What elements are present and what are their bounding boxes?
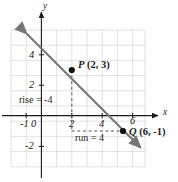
x-tick-label-6: 6 bbox=[130, 116, 135, 127]
y-tick-label-neg2: -2 bbox=[25, 141, 34, 152]
point-q-coords: (6, -1) bbox=[139, 126, 165, 137]
point-q-marker bbox=[120, 128, 126, 134]
point-q-label: Q (6, -1) bbox=[129, 127, 165, 138]
point-p-name: P bbox=[78, 59, 84, 70]
x-tick-label-2: 2 bbox=[69, 119, 74, 130]
run-annotation: run = 4 bbox=[75, 133, 104, 143]
point-q-name: Q bbox=[129, 126, 137, 137]
y-axis-label: y bbox=[43, 2, 47, 12]
graph-figure: y x -1 0 2 4 6 4 2 -2 P (2, 3) Q (6, -1)… bbox=[0, 0, 178, 182]
rise-annotation: rise = -4 bbox=[19, 95, 52, 105]
x-axis-label: x bbox=[163, 108, 167, 118]
y-tick-label-4: 4 bbox=[29, 50, 34, 61]
point-p-marker bbox=[69, 67, 75, 73]
x-tick-label-0: 0 bbox=[31, 119, 36, 130]
point-p-label: P (2, 3) bbox=[78, 60, 110, 71]
point-p-coords: (2, 3) bbox=[87, 59, 110, 70]
y-tick-label-2: 2 bbox=[29, 80, 34, 91]
coordinate-plane bbox=[0, 0, 178, 182]
x-tick-label-neg1: -1 bbox=[20, 119, 29, 130]
x-tick-label-4: 4 bbox=[99, 119, 104, 130]
